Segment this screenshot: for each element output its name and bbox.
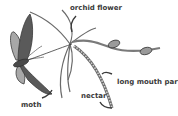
moth-orchid-diagram: orchid flower long mouth part nectar mot… <box>0 0 178 116</box>
label-nectar: nectar <box>81 93 106 100</box>
label-orchid-flower: orchid flower <box>70 5 122 12</box>
label-moth: moth <box>21 102 41 109</box>
orchid-bud-icon <box>139 46 152 56</box>
label-long-mouth-part: long mouth part <box>117 79 178 86</box>
moth-proboscis <box>28 44 72 60</box>
